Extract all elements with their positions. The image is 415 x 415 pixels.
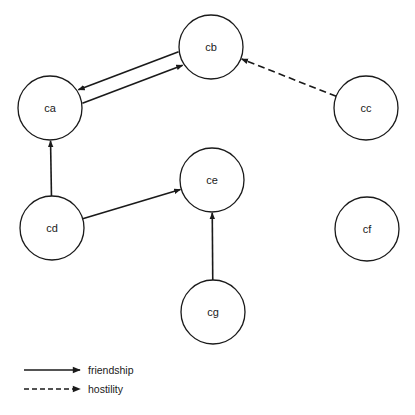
legend: friendship hostility xyxy=(24,364,134,395)
node-label: cg xyxy=(207,306,219,318)
edge-cb-to-ca xyxy=(78,52,178,90)
node-ce: ce xyxy=(180,148,244,212)
node-label: cf xyxy=(363,223,373,235)
legend-item-friendship: friendship xyxy=(24,364,134,376)
legend-label-hostility: hostility xyxy=(88,383,124,395)
edge-cc-to-cb xyxy=(242,59,337,96)
edge-cd-to-ca xyxy=(51,141,52,196)
edge-cd-to-ce xyxy=(83,189,181,218)
node-cc: cc xyxy=(334,76,398,140)
node-label: cd xyxy=(46,222,58,234)
node-cb: cb xyxy=(179,15,243,79)
node-label: cc xyxy=(361,102,373,114)
node-cf: cf xyxy=(335,197,399,261)
legend-item-hostility: hostility xyxy=(24,383,124,395)
node-label: cb xyxy=(205,41,217,53)
node-cd: cd xyxy=(20,196,84,260)
legend-label-friendship: friendship xyxy=(88,364,134,376)
node-label: ca xyxy=(44,102,57,114)
relationship-graph: cacbcccdcecfcg friendship hostility xyxy=(0,0,415,415)
edge-cg-to-ce xyxy=(212,213,213,280)
nodes-layer: cacbcccdcecfcg xyxy=(18,15,399,344)
node-cg: cg xyxy=(181,280,245,344)
edge-ca-to-cb xyxy=(82,65,182,103)
node-label: ce xyxy=(206,174,218,186)
node-ca: ca xyxy=(18,76,82,140)
